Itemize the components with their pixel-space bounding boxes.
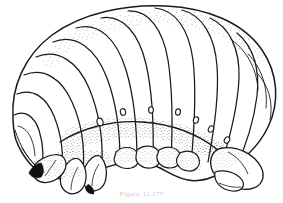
thoracic-leg (29, 155, 66, 183)
figure-caption: Figure11.177 (0, 190, 283, 198)
spiracle (175, 108, 181, 115)
figure-caption-number: Figure (120, 190, 140, 198)
spiracle (149, 107, 154, 113)
head-capsule (211, 146, 266, 192)
spiracle (120, 108, 127, 116)
larva-illustration (0, 0, 283, 203)
figure-caption-text: 11.177 (143, 190, 164, 198)
figure-container: Figure11.177 (0, 0, 283, 203)
